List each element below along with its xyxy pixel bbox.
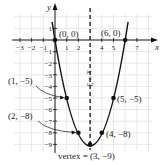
label-vertex: vertex = (3, −9) xyxy=(58,151,115,161)
point-2-m8 xyxy=(76,131,81,136)
svg-text:−4: −4 xyxy=(45,83,53,91)
point-vertex xyxy=(88,142,93,147)
svg-text:−2: −2 xyxy=(28,44,36,52)
point-0-0 xyxy=(53,38,58,43)
svg-text:−7: −7 xyxy=(45,118,53,126)
svg-text:5: 5 xyxy=(112,44,116,52)
label-point-4-m8: (4, −8) xyxy=(106,129,131,139)
y-axis-arrow-icon xyxy=(53,3,58,10)
svg-text:−8: −8 xyxy=(45,129,53,137)
svg-text:1: 1 xyxy=(49,25,53,33)
label-point-1-m5: (1, −5) xyxy=(8,76,33,86)
arrowhead-icon xyxy=(72,131,77,135)
svg-text:2: 2 xyxy=(77,44,81,52)
svg-text:4: 4 xyxy=(100,44,104,52)
svg-text:−9: −9 xyxy=(45,141,53,149)
x-axis-label: x xyxy=(154,42,159,52)
grid xyxy=(14,14,152,152)
svg-text:−1: −1 xyxy=(45,48,53,56)
svg-text:−6: −6 xyxy=(45,106,53,114)
svg-text:−5: −5 xyxy=(45,95,53,103)
point-5-m5 xyxy=(111,96,116,101)
axes xyxy=(12,6,155,153)
point-4-m8 xyxy=(100,131,105,136)
svg-text:−2: −2 xyxy=(45,60,53,68)
svg-text:−3: −3 xyxy=(45,72,53,80)
svg-text:7: 7 xyxy=(135,44,139,52)
svg-text:−3: −3 xyxy=(16,44,24,52)
label-point-2-m8: (2, −8) xyxy=(8,111,33,121)
point-6-0 xyxy=(123,38,128,43)
label-point-6-0: (6, 0) xyxy=(101,28,121,38)
label-point-0-0: (0, 0) xyxy=(59,29,79,39)
x-tick-labels: −3 −2 −1 1 2 4 5 7 xyxy=(16,44,139,52)
label-point-5-m5: (5, −5) xyxy=(117,94,142,104)
y-axis-label: y xyxy=(46,2,51,12)
symmetry-label: x = 3 xyxy=(85,70,94,87)
svg-text:1: 1 xyxy=(65,44,69,52)
point-1-m5 xyxy=(64,96,69,101)
parabola-graph: x = 3 −3 −2 −1 1 2 4 5 7 1 −1 −2 −3 −4 −… xyxy=(0,0,166,165)
arrowhead-icon xyxy=(60,96,65,100)
